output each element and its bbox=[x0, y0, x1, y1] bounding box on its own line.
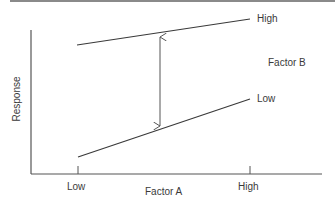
x-axis-label: Factor A bbox=[145, 187, 182, 197]
series-label-high: High bbox=[257, 14, 278, 24]
series-line-high bbox=[77, 19, 250, 45]
series-label-low: Low bbox=[257, 94, 275, 104]
x-tick-label-high: High bbox=[238, 182, 259, 192]
legend-title-factor-b: Factor B bbox=[268, 58, 306, 68]
y-axis-label: Response bbox=[12, 76, 22, 121]
x-tick-label-low: Low bbox=[67, 182, 85, 192]
interaction-plot bbox=[0, 0, 335, 205]
series-line-low bbox=[78, 99, 250, 157]
